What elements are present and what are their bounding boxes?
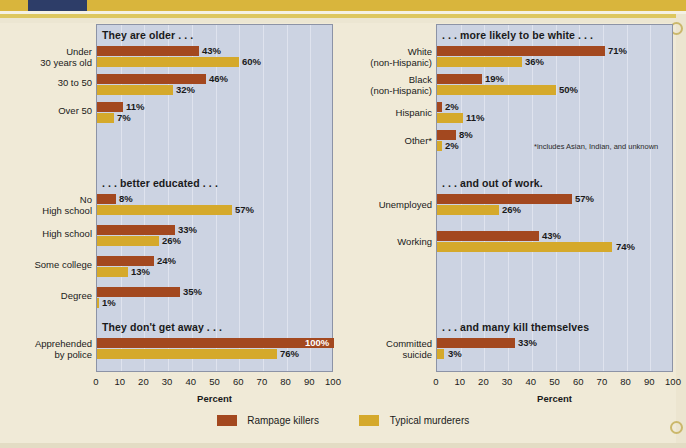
value-rampage-unemployed: 57%	[575, 194, 594, 204]
xtick-10: 10	[449, 376, 471, 387]
category-label-30to50: 30 to 50	[14, 77, 92, 88]
bar-rampage-suicide	[437, 338, 515, 348]
bar-rampage-working	[437, 231, 539, 241]
bar-typical-30to50	[97, 85, 173, 95]
xtick-80: 80	[615, 376, 637, 387]
bar-typical-noschool	[97, 205, 232, 215]
left-x-axis: 0 10 20 30 40 50 60 70 80 90 100	[96, 376, 333, 390]
value-rampage-somecollege: 24%	[157, 256, 176, 266]
bar-rampage-unemployed	[437, 194, 572, 204]
bar-typical-over50	[97, 113, 114, 123]
bar-rampage-over50	[97, 102, 123, 112]
value-rampage-degree: 35%	[183, 287, 202, 297]
bar-typical-other	[437, 141, 442, 151]
xtick-10: 10	[109, 376, 131, 387]
bar-rampage-highschool	[97, 225, 175, 235]
value-typical-black: 50%	[559, 85, 578, 95]
category-label-under30-line1: Under	[14, 46, 92, 57]
section-title-education: . . . better educated . . .	[102, 177, 218, 189]
bar-typical-apprehended	[97, 349, 277, 359]
value-rampage-other: 8%	[459, 130, 473, 140]
xtick-60: 60	[227, 376, 249, 387]
header-navy-block	[28, 0, 87, 11]
xtick-100: 100	[322, 376, 344, 387]
bar-typical-suicide	[437, 349, 444, 359]
xtick-40: 40	[180, 376, 202, 387]
category-label-black-line1: Black	[354, 74, 432, 85]
bar-rampage-noschool	[97, 194, 116, 204]
xtick-80: 80	[275, 376, 297, 387]
category-label-under30-line2: 30 years old	[14, 57, 92, 68]
left-x-axis-title: Percent	[96, 393, 333, 404]
legend-swatch-typical-icon	[359, 415, 379, 426]
category-label-degree: Degree	[14, 290, 92, 301]
bar-typical-hispanic	[437, 113, 463, 123]
race-footnote: *includes Asian, Indian, and unknown	[534, 142, 658, 151]
chart-legend: Rampage killers Typical murderers	[0, 410, 686, 429]
header-pale-rule	[0, 18, 686, 23]
xtick-50: 50	[204, 376, 226, 387]
value-typical-working: 74%	[616, 242, 635, 252]
category-label-somecollege: Some college	[14, 259, 92, 270]
xtick-70: 70	[591, 376, 613, 387]
legend-label-typical: Typical murderers	[390, 415, 469, 426]
bar-typical-degree	[97, 298, 99, 308]
right-x-axis: 0 10 20 30 40 50 60 70 80 90 100	[436, 376, 673, 390]
xtick-40: 40	[520, 376, 542, 387]
category-label-apprehended-line2: by police	[14, 349, 92, 360]
bar-rampage-hispanic	[437, 102, 442, 112]
category-label-highschool: High school	[14, 228, 92, 239]
bar-typical-highschool	[97, 236, 159, 246]
category-label-suicide-line1: Committed	[354, 338, 432, 349]
xtick-30: 30	[496, 376, 518, 387]
category-label-noschool-line2: High school	[14, 205, 92, 216]
right-x-axis-title: Percent	[436, 393, 673, 404]
xtick-90: 90	[298, 376, 320, 387]
xtick-50: 50	[544, 376, 566, 387]
bar-typical-white	[437, 57, 522, 67]
value-rampage-30to50: 46%	[209, 74, 228, 84]
xtick-70: 70	[251, 376, 273, 387]
xtick-90: 90	[638, 376, 660, 387]
bar-rampage-white	[437, 46, 605, 56]
category-label-white-line2: (non-Hispanic)	[354, 57, 432, 68]
section-title-race: . . . more likely to be white . . .	[442, 29, 593, 41]
section-title-work: . . . and out of work.	[442, 177, 543, 189]
value-typical-suicide: 3%	[448, 349, 462, 359]
legend-label-rampage: Rampage killers	[247, 415, 319, 426]
category-label-over50: Over 50	[14, 105, 92, 116]
bar-typical-black	[437, 85, 556, 95]
value-rampage-noschool: 8%	[119, 194, 133, 204]
value-typical-somecollege: 13%	[131, 267, 150, 277]
bar-rampage-black	[437, 74, 482, 84]
bar-typical-somecollege	[97, 267, 128, 277]
xtick-0: 0	[425, 376, 447, 387]
value-typical-noschool: 57%	[235, 205, 254, 215]
xtick-60: 60	[567, 376, 589, 387]
bar-rampage-somecollege	[97, 256, 154, 266]
value-typical-white: 36%	[525, 57, 544, 67]
value-rampage-under30: 43%	[202, 46, 221, 56]
bar-rampage-degree	[97, 287, 180, 297]
xtick-100: 100	[662, 376, 684, 387]
xtick-20: 20	[132, 376, 154, 387]
value-typical-other: 2%	[445, 141, 459, 151]
xtick-0: 0	[85, 376, 107, 387]
bar-rampage-30to50	[97, 74, 206, 84]
category-label-apprehended-line1: Apprehended	[14, 338, 92, 349]
value-typical-under30: 60%	[242, 57, 261, 67]
legend-item-typical: Typical murderers	[359, 411, 469, 429]
category-label-hispanic: Hispanic	[354, 107, 432, 118]
bar-rampage-under30	[97, 46, 199, 56]
category-label-unemployed: Unemployed	[354, 199, 432, 210]
bar-rampage-other	[437, 130, 456, 140]
legend-swatch-rampage-icon	[217, 415, 237, 426]
infographic-page: They are older . . . Under 30 years old …	[0, 0, 686, 448]
bar-typical-working	[437, 242, 612, 252]
value-rampage-black: 19%	[485, 74, 504, 84]
value-typical-degree: 1%	[102, 298, 116, 308]
category-label-white-line1: White	[354, 46, 432, 57]
footer-band	[0, 443, 686, 448]
category-label-other: Other*	[354, 135, 432, 146]
left-chart-column: They are older . . . Under 30 years old …	[14, 24, 354, 396]
